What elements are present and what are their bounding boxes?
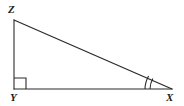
side-hypotenuse-zx — [14, 20, 172, 89]
triangle-drawing-canvas — [0, 0, 184, 106]
right-angle-marker-y — [14, 78, 26, 89]
geometry-figure: Z Y X — [0, 0, 184, 106]
vertex-label-z: Z — [8, 4, 15, 15]
vertex-label-y: Y — [10, 92, 17, 103]
vertex-label-x: X — [166, 92, 173, 103]
